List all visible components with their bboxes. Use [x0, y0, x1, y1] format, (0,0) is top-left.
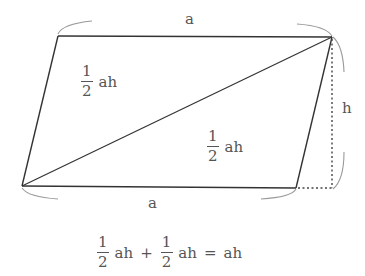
- numerator: 1: [80, 64, 94, 79]
- plus-sign: +: [140, 244, 153, 262]
- height-label: h: [342, 101, 352, 116]
- height-brace-upper-arc: [333, 37, 344, 72]
- denominator: 2: [98, 255, 108, 270]
- term-text: ah: [115, 244, 134, 262]
- area-text: ah: [225, 138, 244, 156]
- numerator: 1: [160, 235, 174, 250]
- denominator: 2: [162, 255, 172, 270]
- bottom-brace-right-arc: [261, 189, 296, 199]
- upper-triangle-area: 1 2 ah: [80, 64, 117, 99]
- fraction-half: 1 2: [80, 64, 94, 99]
- top-side-label: a: [185, 12, 194, 27]
- equation-result: ah: [223, 244, 242, 262]
- top-brace-left-arc: [58, 21, 92, 34]
- dimension-braces: [22, 21, 344, 199]
- right-side: [296, 37, 332, 188]
- lower-triangle-area: 1 2 ah: [206, 129, 243, 164]
- top-brace-right-arc: [297, 24, 332, 36]
- term-text: ah: [178, 244, 197, 262]
- area-text: ah: [99, 73, 118, 91]
- area-equation: 1 2 ah + 1 2 ah = ah: [96, 235, 242, 270]
- left-side: [22, 36, 58, 186]
- equation-term-2: 1 2 ah: [160, 235, 197, 270]
- bottom-brace-left-arc: [22, 188, 58, 199]
- bottom-side: [22, 186, 296, 188]
- bottom-side-label: a: [148, 196, 157, 211]
- fraction-half: 1 2: [206, 129, 220, 164]
- fraction-half: 1 2: [160, 235, 174, 270]
- equals-sign: =: [204, 244, 217, 262]
- numerator: 1: [206, 129, 220, 144]
- diagonal: [22, 37, 332, 186]
- height-brace-lower-arc: [333, 152, 344, 189]
- parallelogram: [22, 36, 332, 188]
- fraction-half: 1 2: [96, 235, 110, 270]
- top-side: [58, 36, 332, 37]
- numerator: 1: [96, 235, 110, 250]
- denominator: 2: [82, 84, 92, 99]
- equation-term-1: 1 2 ah: [96, 235, 133, 270]
- denominator: 2: [208, 149, 218, 164]
